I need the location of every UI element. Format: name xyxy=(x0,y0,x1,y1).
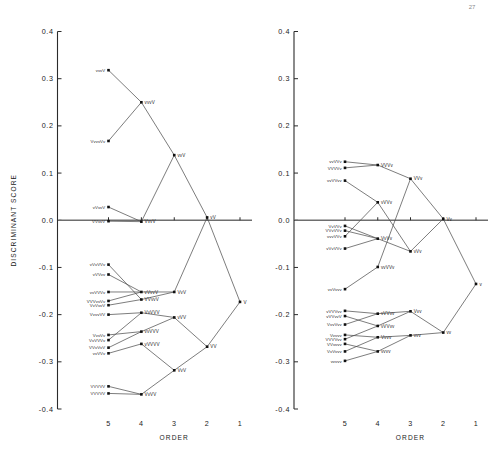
tree-node xyxy=(239,301,242,304)
x-axis-tick-label: 1 xyxy=(474,419,479,428)
x-axis-tick-label: 5 xyxy=(343,419,348,428)
cluster-node-label: vvvv xyxy=(381,349,391,354)
leaf-node-label: vvVVv xyxy=(93,351,106,356)
tree-node xyxy=(107,206,110,209)
cluster-node-label: vvVVv xyxy=(381,265,395,270)
tree-node xyxy=(173,291,176,294)
tree-node xyxy=(344,229,347,232)
tree-node xyxy=(475,283,478,286)
leaf-node-label: vvvV xyxy=(96,68,106,73)
leaf-node-label: VVvVvV xyxy=(89,345,105,350)
tree-node xyxy=(376,237,379,240)
tree-node xyxy=(107,273,110,276)
tree-node xyxy=(140,291,143,294)
page-corner-mark: 27 xyxy=(469,4,476,10)
leaf-node-label: VVvVVv xyxy=(326,228,343,233)
tree-node xyxy=(344,338,347,341)
tree-node xyxy=(140,330,143,333)
cluster-node-label: vVVvv xyxy=(381,324,395,329)
tree-node xyxy=(107,69,110,72)
cluster-node-label: vVVv xyxy=(381,200,393,205)
leaf-node-label: VvVvvV xyxy=(90,303,106,308)
y-axis-tick-label: 0.4 xyxy=(42,27,54,36)
tree-node xyxy=(107,300,110,303)
leaf-node-label: VVVVv xyxy=(328,166,343,171)
x-axis-tick-label: 3 xyxy=(408,419,413,428)
leaf-node-label: vvVvvv xyxy=(328,287,343,292)
tree-node xyxy=(107,339,110,342)
x-axis-title: ORDER xyxy=(396,434,425,441)
leaf-node-label: VvvvVV xyxy=(90,312,106,317)
y-axis-tick-label: -0.1 xyxy=(39,263,54,272)
tree-node xyxy=(173,316,176,319)
x-axis-tick-label: 3 xyxy=(172,419,177,428)
leaf-node-label: vvVVv xyxy=(329,159,342,164)
cluster-node-label: vvVVV xyxy=(145,329,160,334)
tree-node xyxy=(344,350,347,353)
cluster-node-label: vvV xyxy=(177,153,186,158)
tree-node xyxy=(344,360,347,363)
leaf-node-label: vvVVvv xyxy=(327,178,343,183)
tree-node xyxy=(344,288,347,291)
cluster-node-label: vVV xyxy=(177,315,187,320)
y-axis-tick-label: 0.0 xyxy=(278,216,290,225)
tree-node xyxy=(107,220,110,223)
cluster-node-label: Vv xyxy=(446,217,452,222)
leaf-node-label: vvVVVv xyxy=(90,290,106,295)
x-axis-tick-label: 2 xyxy=(441,419,446,428)
y-axis-tick-label: 0.2 xyxy=(278,121,290,130)
y-axis-tick-label: -0.2 xyxy=(39,310,54,319)
leaf-node-label: vVvVVv xyxy=(326,246,342,251)
tree-node xyxy=(107,304,110,307)
dendrogram-figure: 27 0.40.30.20.10.0-0.1-0.2-0.3-0.454321O… xyxy=(0,0,492,461)
cluster-node-label: VVv xyxy=(414,176,423,181)
leaf-node-label: VVvvvv xyxy=(327,342,343,347)
cluster-node-label: vv xyxy=(446,330,451,335)
leaf-node-label: VvVvvv xyxy=(327,349,343,354)
tree-node xyxy=(344,160,347,163)
cluster-node-label: vVVVV xyxy=(145,342,161,347)
cluster-node-label: VvvV xyxy=(145,219,157,224)
tree-node xyxy=(107,352,110,355)
x-axis-tick-label: 4 xyxy=(375,419,380,428)
tree-node xyxy=(344,315,347,318)
leaf-node-label: VVvvV xyxy=(92,219,105,224)
leaf-node-label: VVVVV xyxy=(91,391,106,396)
tree-node xyxy=(140,298,143,301)
leaf-node-label: vVvvV xyxy=(93,205,106,210)
tree-node xyxy=(206,216,209,219)
tree-node xyxy=(442,218,445,221)
cluster-node-label: vVVvv xyxy=(381,311,395,316)
tree-node xyxy=(376,164,379,167)
tree-node xyxy=(376,201,379,204)
y-axis-tick-label: 0.4 xyxy=(278,27,290,36)
y-axis-tick-label: -0.2 xyxy=(275,310,290,319)
tree-node xyxy=(344,343,347,346)
tree-node xyxy=(107,385,110,388)
y-axis-tick-label: -0.4 xyxy=(39,405,54,414)
tree-node xyxy=(344,179,347,182)
leaf-node-label: VvVVVv xyxy=(89,338,106,343)
leaf-node-label: vvvVVv xyxy=(327,234,343,239)
x-axis-title: ORDER xyxy=(160,434,189,441)
leaf-node-label: VvvvVv xyxy=(90,139,106,144)
cluster-node-label: vvvV xyxy=(145,100,156,105)
tree-node xyxy=(107,392,110,395)
x-axis-tick-label: 2 xyxy=(205,419,210,428)
tree-node xyxy=(140,220,143,223)
y-axis-tick-label: -0.3 xyxy=(39,357,54,366)
y-axis-tick-label: 0.2 xyxy=(42,121,54,130)
cluster-node-label: VvV xyxy=(177,368,187,373)
y-axis-tick-label: 0.3 xyxy=(42,74,54,83)
cluster-node-label: vVv xyxy=(414,249,423,254)
leaf-node-label: vVVvv xyxy=(93,272,106,277)
tree-node xyxy=(344,167,347,170)
x-axis-tick-label: 4 xyxy=(139,419,144,428)
tree-node xyxy=(409,334,412,337)
tree-node xyxy=(344,310,347,313)
tree-node xyxy=(140,343,143,346)
y-axis-tick-label: 0.1 xyxy=(278,169,290,178)
tree-node xyxy=(344,235,347,238)
tree-node xyxy=(409,177,412,180)
tree-node xyxy=(173,369,176,372)
